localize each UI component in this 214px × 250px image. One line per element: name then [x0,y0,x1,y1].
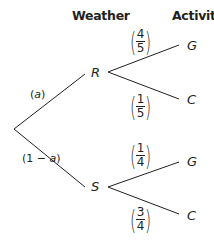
label-root-r: (a) [30,88,45,101]
activity-header: Activity [172,8,214,23]
node-g-sun: G [187,154,197,169]
fraction-s-c: (34) [128,206,153,233]
tree-lines [0,0,214,250]
weather-header: Weather [72,8,130,23]
node-s: S [91,179,99,194]
fraction-r-g: (45) [128,28,153,55]
fraction-r-c: (15) [128,93,153,120]
node-g-rain: G [187,38,197,53]
node-c-rain: C [187,92,196,107]
node-r: R [91,65,100,80]
label-root-s: (1 − a) [22,152,61,165]
node-c-sun: C [187,208,196,223]
branch-root-r [14,74,85,129]
fraction-s-g: (14) [128,142,153,169]
